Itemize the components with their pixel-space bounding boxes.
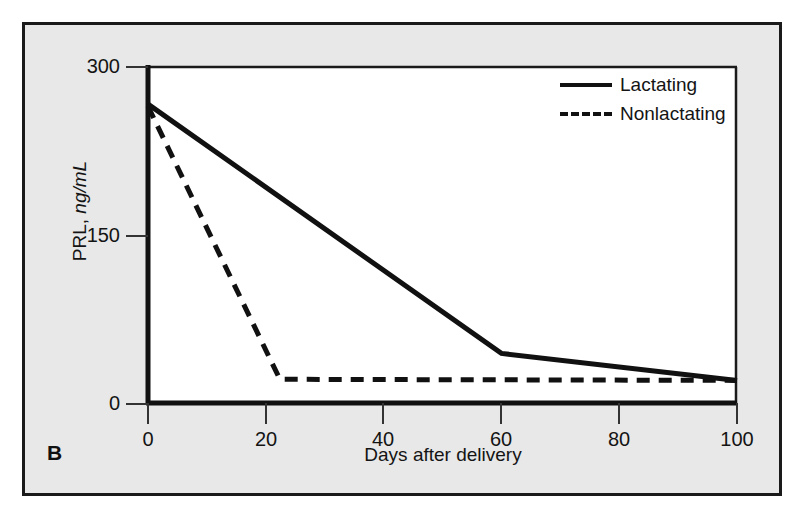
- y-axis-title-text: PRL,: [69, 214, 90, 262]
- x-axis-title: Days after delivery: [148, 444, 738, 466]
- figure-panel-b: 300 150 0 0 20 40 60 80 100 PRL, ng/mL D…: [0, 0, 805, 519]
- legend-item-nonlactating: Nonlactating: [560, 99, 730, 128]
- y-axis-title: PRL, ng/mL: [69, 121, 91, 301]
- y-tick-label-300: 300: [58, 55, 120, 78]
- legend-label-nonlactating: Nonlactating: [620, 103, 726, 125]
- panel-letter: B: [47, 441, 63, 465]
- chart-legend: Lactating Nonlactating: [560, 70, 730, 128]
- y-tick-label-0: 0: [58, 392, 120, 415]
- y-axis-title-unit: ng/mL: [69, 161, 90, 214]
- legend-solid-line-icon: [560, 80, 612, 90]
- legend-item-lactating: Lactating: [560, 70, 730, 99]
- legend-dashed-line-icon: [560, 109, 612, 119]
- legend-label-lactating: Lactating: [620, 74, 697, 96]
